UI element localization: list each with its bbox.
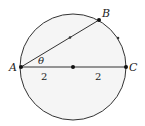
arc-bc-mark bbox=[117, 37, 120, 40]
point-a bbox=[19, 65, 23, 69]
angle-theta-label: θ bbox=[38, 55, 44, 66]
point-c bbox=[124, 65, 128, 69]
label-b: B bbox=[101, 7, 110, 20]
right-radius-label: 2 bbox=[95, 71, 101, 82]
point-b bbox=[97, 18, 101, 22]
chord-ab-midpoint-mark bbox=[69, 36, 72, 39]
label-c: C bbox=[129, 61, 138, 74]
left-radius-label: 2 bbox=[41, 71, 47, 82]
label-a: A bbox=[8, 61, 17, 74]
center-point bbox=[71, 65, 75, 69]
circle-diagram: A B C θ 2 2 bbox=[0, 0, 145, 126]
